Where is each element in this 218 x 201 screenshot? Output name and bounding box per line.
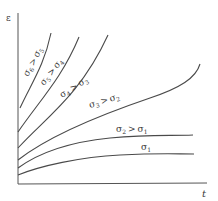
- curve-sigma2: [18, 135, 193, 168]
- x-axis: [18, 183, 207, 184]
- label-sigma1: σ1: [141, 142, 151, 153]
- label-sigma2: σ2>σ1: [116, 124, 148, 135]
- label-sigma3: σ3>σ2: [88, 91, 122, 111]
- curve-sigma1: [18, 154, 194, 175]
- y-axis-label: ε: [6, 13, 11, 23]
- label-sigma4: σ4>σ3: [58, 74, 91, 100]
- creep-curves-diagram: ε t σ1 σ2>σ1 σ3>σ2 σ4>σ3 σ5>σ4 σ6>σ5: [0, 0, 218, 201]
- x-axis-label: t: [202, 188, 207, 199]
- label-sigma5: σ5>σ4: [38, 56, 66, 88]
